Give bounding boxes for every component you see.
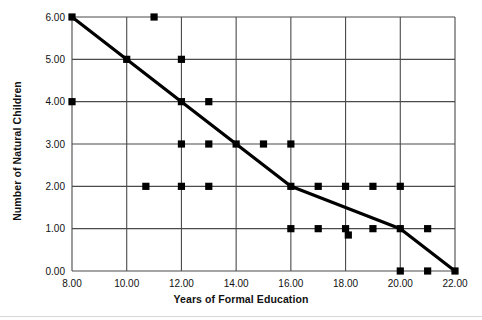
- data-point-marker: [397, 183, 404, 190]
- y-tick-label: 2.00: [46, 181, 66, 192]
- data-point-marker: [178, 140, 185, 147]
- x-tick-label: 16.00: [278, 278, 303, 289]
- y-tick-label: 4.00: [46, 96, 66, 107]
- data-point-marker: [287, 225, 294, 232]
- data-point-marker: [178, 183, 185, 190]
- y-axis-title: Number of Natural Children: [11, 51, 23, 251]
- chart-container: 0.001.002.003.004.005.006.008.0010.0012.…: [0, 0, 482, 320]
- data-point-marker: [205, 140, 212, 147]
- data-point-marker: [345, 231, 352, 238]
- x-tick-label: 20.00: [388, 278, 413, 289]
- data-point-marker: [342, 183, 349, 190]
- y-tick-label: 1.00: [46, 223, 66, 234]
- data-point-marker: [342, 225, 349, 232]
- data-point-marker: [287, 140, 294, 147]
- data-point-marker: [142, 183, 149, 190]
- x-tick-label: 14.00: [224, 278, 249, 289]
- scatter-plot: 0.001.002.003.004.005.006.008.0010.0012.…: [0, 0, 482, 320]
- x-tick-label: 12.00: [169, 278, 194, 289]
- x-axis-title: Years of Formal Education: [0, 293, 482, 305]
- y-tick-label: 3.00: [46, 139, 66, 150]
- data-point-marker: [424, 267, 431, 274]
- data-point-marker: [397, 267, 404, 274]
- y-tick-label: 0.00: [46, 266, 66, 277]
- x-tick-label: 22.00: [442, 278, 467, 289]
- data-point-marker: [315, 183, 322, 190]
- data-point-marker: [424, 225, 431, 232]
- x-tick-label: 10.00: [114, 278, 139, 289]
- data-point-marker: [260, 140, 267, 147]
- y-tick-label: 6.00: [46, 12, 66, 23]
- data-point-marker: [315, 225, 322, 232]
- data-point-marker: [68, 98, 75, 105]
- x-tick-label: 18.00: [333, 278, 358, 289]
- data-point-marker: [205, 183, 212, 190]
- footer-divider: [0, 316, 482, 317]
- data-point-marker: [369, 225, 376, 232]
- data-point-marker: [178, 56, 185, 63]
- data-point-marker: [150, 13, 157, 20]
- x-tick-label: 8.00: [62, 278, 82, 289]
- y-tick-label: 5.00: [46, 54, 66, 65]
- data-point-marker: [369, 183, 376, 190]
- data-point-marker: [205, 98, 212, 105]
